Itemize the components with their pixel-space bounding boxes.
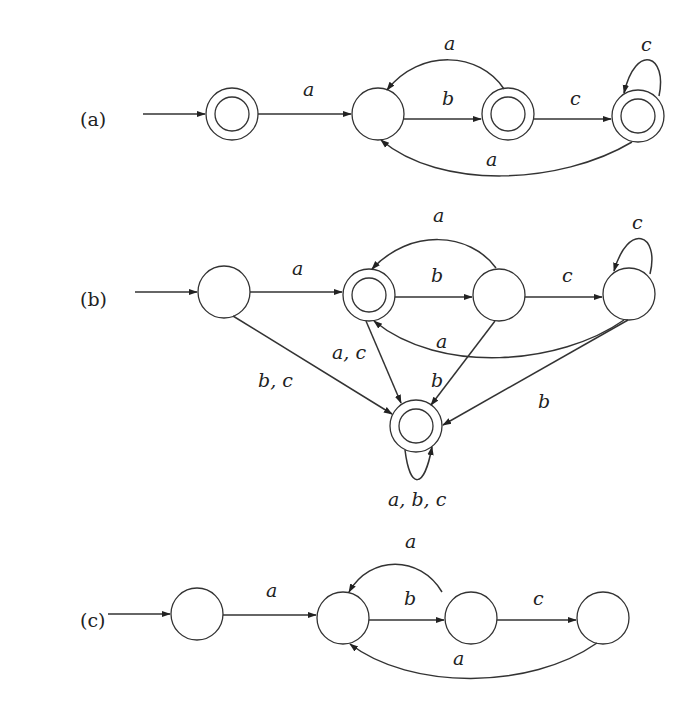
edge-a-q3-q1 — [381, 140, 632, 176]
edge-label-b-q3-q4: b — [538, 390, 550, 412]
panel-label-b: (b) — [80, 288, 107, 310]
edge-c-q2-q1 — [349, 564, 442, 592]
diagram-b: (b) a b, c b a, c a c b — [80, 204, 655, 510]
edge-label-b-q1-q4: a, c — [332, 341, 366, 363]
edge-label-c-q2-q1: a — [405, 530, 416, 552]
diagram-a: (a) a b a c c a — [80, 32, 664, 176]
edge-label-a-q3-q3: c — [641, 33, 652, 55]
edge-b-q0-q4 — [233, 316, 392, 414]
panel-label-a: (a) — [80, 108, 106, 130]
diagram-c: (c) a b a c a — [80, 530, 629, 678]
state-a-q2 — [482, 88, 534, 140]
edge-label-a-q3-q1: a — [486, 148, 497, 170]
edge-label-b-q0-q4: b, c — [258, 369, 293, 391]
state-a-q0 — [206, 88, 258, 140]
edge-label-b-q3-q1: a — [436, 330, 447, 352]
edge-label-a-q2-q3: c — [570, 87, 581, 109]
edge-label-c-q1-q2: b — [404, 587, 416, 609]
state-c-q3 — [577, 592, 629, 644]
edge-c-q3-q1 — [350, 643, 597, 678]
edge-a-q2-q1 — [387, 60, 504, 90]
state-b-q0 — [198, 266, 250, 318]
edge-label-c-q2-q3: c — [533, 587, 544, 609]
state-a-q3 — [612, 90, 664, 142]
state-a-q1 — [352, 88, 404, 140]
edge-label-a-q0-q1: a — [303, 78, 314, 100]
panel-label-c: (c) — [80, 609, 105, 631]
edge-label-c-q0-q1: a — [266, 579, 277, 601]
edge-b-q3-q4 — [443, 320, 628, 425]
edge-label-a-q1-q2: b — [442, 87, 454, 109]
edge-label-b-q2-q3: c — [562, 264, 573, 286]
edge-b-q1-q4 — [366, 321, 401, 403]
state-b-q4 — [390, 400, 442, 452]
edge-label-b-q2-q1: a — [433, 204, 444, 226]
state-b-q1 — [343, 269, 395, 321]
automata-figure: (a) a b a c c a (b) — [0, 0, 695, 715]
edge-label-b-q0-q1: a — [292, 257, 303, 279]
state-b-q3 — [603, 268, 655, 320]
edge-label-b-q1-q2: b — [431, 264, 443, 286]
edge-label-b-q4-q4: a, b, c — [388, 488, 447, 510]
edge-label-b-q2-q4: b — [431, 369, 443, 391]
edge-b-q3-q1 — [374, 320, 624, 358]
edge-label-c-q3-q1: a — [453, 647, 464, 669]
edge-label-a-q2-q1: a — [444, 32, 455, 54]
state-b-q2 — [473, 269, 525, 321]
state-c-q0 — [171, 588, 223, 640]
edge-label-b-q3-q3: c — [632, 211, 643, 233]
state-c-q2 — [445, 592, 497, 644]
state-c-q1 — [317, 592, 369, 644]
